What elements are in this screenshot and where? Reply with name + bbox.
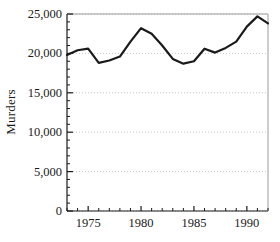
axis-lines xyxy=(67,14,268,211)
chart-figure: Murders 05,00010,00015,00020,00025,000 1… xyxy=(0,0,280,242)
series-line xyxy=(67,16,268,63)
plot-area xyxy=(0,0,280,242)
gridlines xyxy=(67,14,268,211)
data-line-murders xyxy=(67,16,268,63)
axis-ticks xyxy=(67,14,268,211)
